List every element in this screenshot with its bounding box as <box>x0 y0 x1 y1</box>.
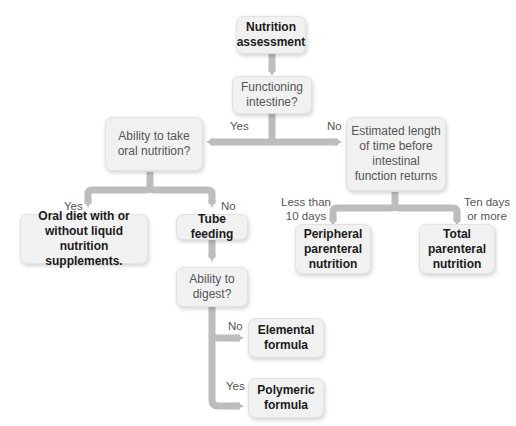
node-oral-diet: Oral diet with or without liquid nutriti… <box>20 214 148 264</box>
edge-label-ten-days-or-more: Ten days or more <box>462 196 512 224</box>
node-tube-feeding: Tube feeding <box>176 214 248 240</box>
node-time-estimate-question: Estimated length of time before intestin… <box>346 117 446 191</box>
node-peripheral-parenteral: Peripheral parenteral nutrition <box>295 224 371 274</box>
node-nutrition-assessment: Nutrition assessment <box>236 16 306 54</box>
edge-label-digest-no: No <box>228 320 243 334</box>
edge-label-intestine-no: No <box>327 120 342 134</box>
node-elemental-formula: Elemental formula <box>248 318 324 358</box>
edge-label-digest-yes: Yes <box>226 380 245 394</box>
edge-label-intestine-yes: Yes <box>230 120 249 134</box>
edge-label-less-than-10-days: Less than 10 days <box>276 196 336 224</box>
node-oral-nutrition-question: Ability to take oral nutrition? <box>105 117 203 171</box>
node-digest-question: Ability to digest? <box>176 267 248 307</box>
node-total-parenteral: Total parenteral nutrition <box>419 224 495 274</box>
node-functioning-intestine: Functioning intestine? <box>232 76 312 114</box>
node-polymeric-formula: Polymeric formula <box>248 378 324 418</box>
